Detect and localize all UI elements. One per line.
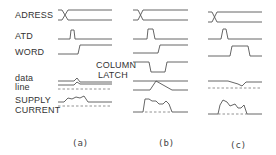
column-b-waveforms [133,10,188,112]
caption-a: (a) [72,138,88,148]
caption-c: (c) [230,140,246,150]
caption-b: (b) [158,138,174,148]
column-c-waveforms [208,12,262,114]
column-a-waveforms [58,10,112,106]
timing-diagram [0,0,276,155]
